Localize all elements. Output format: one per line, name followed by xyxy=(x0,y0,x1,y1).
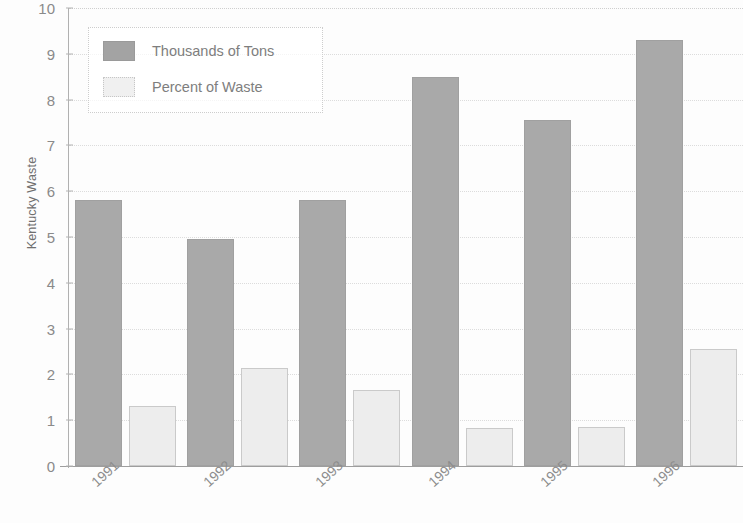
legend-label-percent: Percent of Waste xyxy=(152,79,263,95)
y-tick-label: 2 xyxy=(21,366,55,383)
bar-1992-percent xyxy=(241,368,288,466)
x-axis-line xyxy=(60,466,743,467)
y-tick-label: 8 xyxy=(21,91,55,108)
y-tick-label: 0 xyxy=(21,458,55,475)
legend-label-tons: Thousands of Tons xyxy=(152,43,274,59)
bar-1994-percent xyxy=(466,428,513,466)
y-tick-label: 6 xyxy=(21,183,55,200)
y-tick-label: 7 xyxy=(21,137,55,154)
bar-1991-percent xyxy=(129,406,176,466)
bar-1993-tons xyxy=(299,200,346,466)
bar-1996-percent xyxy=(690,349,737,466)
legend-item-thousands-of-tons: Thousands of Tons xyxy=(103,39,274,63)
y-tick-label: 4 xyxy=(21,274,55,291)
bar-1993-percent xyxy=(353,390,400,466)
legend: Thousands of Tons Percent of Waste xyxy=(88,27,323,113)
y-tick-label: 10 xyxy=(21,0,55,17)
bar-1992-tons xyxy=(187,239,234,466)
bar-1991-tons xyxy=(75,200,122,466)
bar-1995-tons xyxy=(524,120,571,466)
legend-swatch-icon-percent xyxy=(103,77,135,97)
y-tick-label: 9 xyxy=(21,45,55,62)
bar-1994-tons xyxy=(412,77,459,466)
legend-item-percent-of-waste: Percent of Waste xyxy=(103,75,263,99)
bar-chart: Kentucky Waste 012345678910 199119921993… xyxy=(0,0,743,523)
y-tick-label: 3 xyxy=(21,320,55,337)
legend-swatch-icon-tons xyxy=(103,41,135,61)
y-tick-label: 5 xyxy=(21,229,55,246)
bar-1995-percent xyxy=(578,427,625,466)
y-tick-label: 1 xyxy=(21,412,55,429)
bar-1996-tons xyxy=(636,40,683,466)
